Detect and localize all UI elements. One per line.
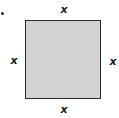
side-label-left: x [8, 55, 20, 66]
gray-square [25, 20, 101, 99]
side-label-bottom: x [58, 104, 70, 115]
side-label-right: x [107, 56, 119, 67]
bullet-dot [1, 12, 4, 15]
side-label-top: x [58, 4, 70, 15]
